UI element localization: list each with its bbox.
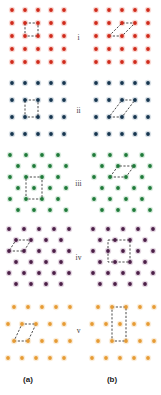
lattice-point: [22, 227, 26, 231]
lattice-point: [26, 339, 30, 343]
lattice-point: [56, 175, 60, 179]
lattice-point: [118, 322, 122, 326]
lattice-point: [107, 21, 111, 25]
lattice-point: [124, 339, 128, 343]
lattice-point: [8, 175, 12, 179]
lattice-point: [16, 164, 20, 168]
lattice-point: [52, 249, 56, 253]
lattice-point: [40, 305, 44, 309]
lattice-point: [36, 60, 40, 64]
lattice-point: [23, 60, 27, 64]
lattice-point: [24, 153, 28, 157]
lattice-point: [62, 356, 66, 360]
lattice-point: [22, 249, 26, 253]
lattice-point: [40, 339, 44, 343]
lattice-point: [48, 186, 52, 190]
lattice-panel-iii-b: [88, 150, 150, 212]
lattice-point: [52, 271, 56, 275]
lattice-svg-i-b: [88, 4, 150, 68]
lattice-point: [94, 98, 98, 102]
lattice-point: [44, 282, 48, 286]
lattice-point: [133, 47, 137, 51]
lattice-panel-iii-a: [4, 150, 66, 212]
lattice-point: [6, 322, 10, 326]
lattice-point: [40, 197, 44, 201]
lattice-point: [20, 322, 24, 326]
unit-cell-outline: [9, 240, 31, 251]
lattice-point: [107, 98, 111, 102]
lattice-point: [138, 305, 142, 309]
lattice-point: [62, 98, 66, 102]
unit-cell-outline: [110, 166, 134, 177]
lattice-point: [62, 8, 66, 12]
lattice-point: [14, 260, 18, 264]
lattice-point: [24, 197, 28, 201]
lattice-point: [23, 47, 27, 51]
lattice-point: [23, 132, 27, 136]
lattice-point: [133, 132, 137, 136]
lattice-point: [132, 208, 136, 212]
lattice-point: [148, 208, 152, 212]
lattice-point: [146, 132, 150, 136]
lattice-point: [96, 339, 100, 343]
lattice-svg-iv-b: [88, 224, 150, 286]
lattice-point: [120, 8, 124, 12]
lattice-point: [49, 8, 53, 12]
lattice-svg-ii-a: [4, 78, 66, 138]
lattice-point: [10, 81, 14, 85]
lattice-point: [36, 34, 40, 38]
lattice-point: [34, 356, 38, 360]
lattice-point: [148, 164, 152, 168]
lattice-point: [121, 271, 125, 275]
lattice-point: [64, 208, 68, 212]
lattice-point: [49, 132, 53, 136]
lattice-point: [8, 197, 12, 201]
row-numeral-iii: iii: [70, 180, 87, 188]
lattice-point: [94, 34, 98, 38]
lattice-point: [133, 34, 137, 38]
lattice-point: [62, 115, 66, 119]
lattice-point: [116, 164, 120, 168]
lattice-point: [91, 271, 95, 275]
lattice-point: [152, 339, 156, 343]
lattice-point: [92, 197, 96, 201]
lattice-point: [10, 34, 14, 38]
lattice-point: [143, 260, 147, 264]
lattice-point: [132, 186, 136, 190]
lattice-panel-v-a: [4, 300, 66, 360]
lattice-point: [118, 356, 122, 360]
lattice-point: [104, 356, 108, 360]
lattice-point: [44, 238, 48, 242]
lattice-point: [121, 249, 125, 253]
lattice-point: [100, 164, 104, 168]
row-numeral-i: i: [70, 34, 87, 42]
lattice-point: [48, 208, 52, 212]
lattice-point: [146, 8, 150, 12]
lattice-svg-v-a: [4, 300, 66, 360]
lattice-point: [143, 238, 147, 242]
lattice-point: [120, 81, 124, 85]
lattice-point: [132, 356, 136, 360]
lattice-point: [62, 322, 66, 326]
lattice-point: [62, 34, 66, 38]
lattice-point: [146, 98, 150, 102]
lattice-point: [16, 208, 20, 212]
lattice-point: [98, 282, 102, 286]
lattice-point: [133, 98, 137, 102]
lattice-point: [133, 115, 137, 119]
lattice-point: [32, 164, 36, 168]
lattice-point: [146, 47, 150, 51]
lattice-point: [23, 115, 27, 119]
lattice-point: [29, 238, 33, 242]
lattice-point: [94, 47, 98, 51]
lattice-point: [40, 175, 44, 179]
lattice-point: [59, 238, 63, 242]
lattice-point: [107, 132, 111, 136]
lattice-point: [32, 208, 36, 212]
lattice-point: [94, 60, 98, 64]
lattice-point: [7, 227, 11, 231]
lattice-point: [10, 47, 14, 51]
lattice-point: [24, 175, 28, 179]
lattice-point: [120, 34, 124, 38]
lattice-point: [29, 282, 33, 286]
